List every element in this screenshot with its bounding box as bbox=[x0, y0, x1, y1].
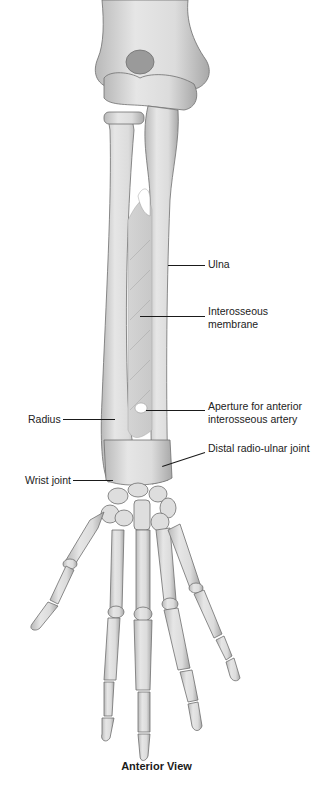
label-radius: Radius bbox=[28, 413, 61, 426]
label-interosseous-membrane-1: Interosseous bbox=[208, 305, 268, 318]
middle-finger-bones bbox=[134, 530, 152, 761]
interosseous-membrane bbox=[128, 189, 152, 438]
index-finger-bones bbox=[102, 530, 124, 741]
anatomy-figure: Ulna Interosseous membrane Aperture for … bbox=[0, 0, 313, 785]
distal-forearm bbox=[104, 440, 172, 485]
carpal-bones bbox=[101, 483, 176, 531]
leader-aperture bbox=[146, 410, 205, 411]
leader-radius bbox=[63, 419, 115, 420]
label-interosseous-membrane-2: membrane bbox=[208, 318, 258, 331]
leader-ulna bbox=[168, 265, 205, 266]
label-aperture-1: Aperture for anterior bbox=[208, 400, 302, 413]
figure-caption: Anterior View bbox=[0, 760, 313, 772]
humerus bbox=[95, 0, 209, 110]
label-wrist-joint: Wrist joint bbox=[25, 474, 71, 487]
label-ulna: Ulna bbox=[208, 258, 230, 271]
forearm-hand-illustration bbox=[0, 0, 313, 785]
leader-interosseous-membrane bbox=[140, 316, 205, 317]
leader-wrist-joint bbox=[73, 480, 113, 481]
label-aperture-2: interosseous artery bbox=[208, 413, 297, 426]
thumb-bones bbox=[31, 512, 104, 630]
label-distal-radioulnar-joint: Distal radio-ulnar joint bbox=[208, 442, 310, 455]
